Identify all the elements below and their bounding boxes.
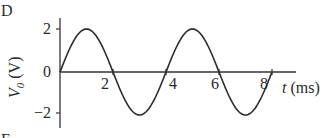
y-axis-label: V0 (V) [6,57,28,99]
xtick-label-2: 2 [101,76,109,92]
xtick-label-4: 4 [169,76,177,92]
ytick-label-2: 2 [43,21,51,37]
ytick-label-0: 0 [43,64,51,80]
xtick-label-6: 6 [211,76,219,92]
xtick-label-8: 8 [260,76,268,92]
x-axis-label: t (ms) [282,80,320,96]
ytick-label-neg2: −2 [34,105,51,121]
